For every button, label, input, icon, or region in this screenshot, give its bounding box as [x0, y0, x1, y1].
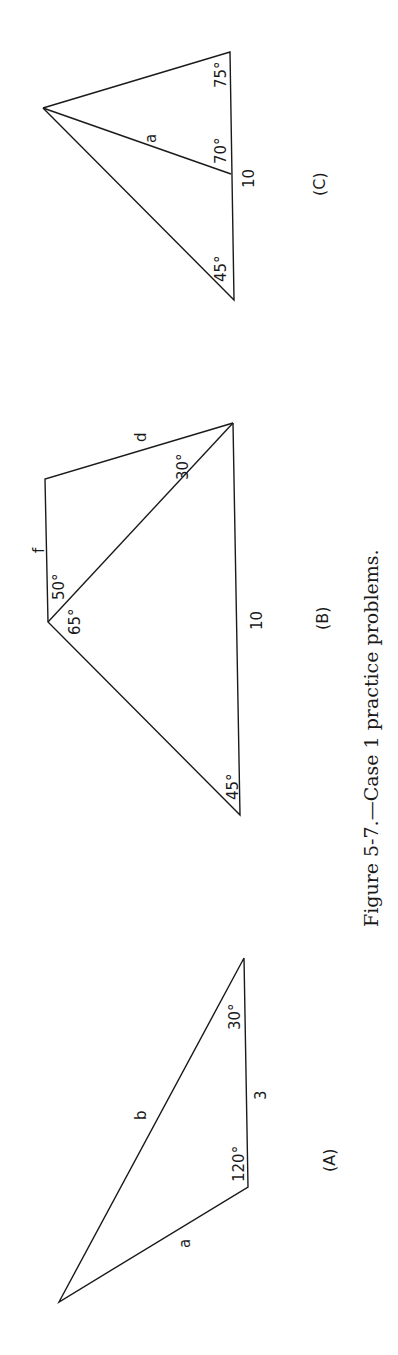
panel-b: f 50° 65° d 30° 10 45° (B) [30, 423, 332, 815]
side-a-a: a [176, 1239, 194, 1248]
panel-a-label: (A) [320, 1149, 339, 1172]
angle-a-30: 30° [226, 1003, 244, 1030]
side-b-d: d [132, 432, 150, 442]
triangle-a-outline [59, 958, 248, 1302]
angle-c-45: 45° [212, 255, 230, 282]
angle-c-75: 75° [212, 61, 230, 88]
side-a-3: 3 [252, 1090, 270, 1100]
panel-c-label: (C) [310, 172, 329, 196]
triangle-c-outline [43, 52, 234, 300]
angle-b-65: 65° [66, 608, 84, 635]
side-c-10: 10 [240, 169, 258, 188]
angle-b-30: 30° [174, 453, 192, 480]
side-a-b: b [132, 1110, 150, 1120]
panel-b-label: (B) [313, 607, 332, 630]
side-b-f: f [30, 547, 48, 553]
side-c-a: a [142, 134, 160, 143]
panel-c: 75° 70° 45° a 10 (C) [43, 52, 329, 300]
panel-a: 30° 3 b 120° a (A) [59, 958, 339, 1302]
figure-canvas: 75° 70° 45° a 10 (C) f 50° 65° d 30° 10 … [0, 0, 398, 1355]
triangle-b-diagonal [48, 423, 233, 622]
angle-a-120: 120° [230, 1146, 248, 1182]
angle-b-45: 45° [224, 773, 242, 800]
side-b-10: 10 [248, 611, 266, 630]
triangle-c-cevian [43, 108, 231, 174]
angle-b-50: 50° [50, 573, 68, 600]
figure-caption: Figure 5-7.—Case 1 practice problems. [360, 549, 382, 927]
angle-c-70: 70° [212, 137, 230, 164]
